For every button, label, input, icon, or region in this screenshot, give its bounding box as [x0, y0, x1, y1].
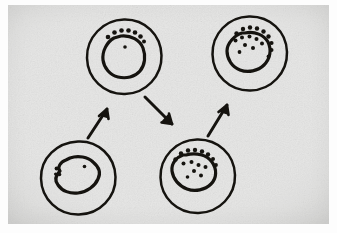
cell-lower-left — [41, 141, 116, 214]
cell-upper-right — [212, 16, 287, 90]
arrow-lower-left-to-upper-middle — [88, 109, 109, 138]
arrow-lower-right-to-upper-right — [208, 105, 229, 136]
figure-root: Hand-drawn cell sequence diagram Four ha… — [0, 0, 337, 233]
cell-membrane — [160, 139, 235, 213]
drawing-layer — [8, 5, 329, 224]
cell-upper-middle — [87, 19, 162, 94]
cell-nucleus — [56, 157, 100, 194]
cell-lower-right — [160, 139, 235, 213]
nucleus-granule-dots — [123, 45, 127, 49]
cell-nucleus — [103, 36, 145, 78]
cell-nucleus — [227, 32, 270, 71]
nucleus-granule-dots — [182, 160, 208, 179]
figure-description: Four hand-drawn circular cells, each con… — [0, 16, 1, 17]
arrow-upper-middle-to-lower-right — [145, 97, 172, 124]
paper-sheet — [8, 5, 329, 224]
cell-membrane — [87, 19, 162, 94]
cell-membrane — [41, 141, 116, 214]
nucleus-granule-dots — [234, 35, 265, 54]
figure-title: Hand-drawn cell sequence diagram — [0, 16, 1, 17]
